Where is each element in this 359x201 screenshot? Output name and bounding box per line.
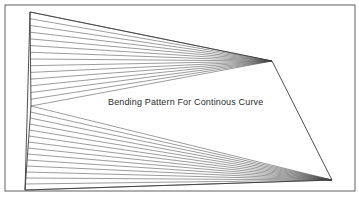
figure-background <box>0 0 359 201</box>
figure-root: Bending Pattern For Continous Curve <box>0 0 359 201</box>
bending-pattern-figure <box>0 0 359 201</box>
